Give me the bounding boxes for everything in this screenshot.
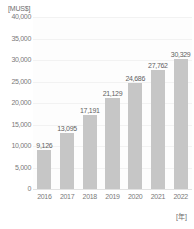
y-axis-unit-label: [MUS$]: [8, 5, 30, 12]
bar-item: 21,129: [105, 17, 119, 189]
y-axis-tick-label: 5,000: [0, 164, 31, 171]
bar: [105, 98, 119, 189]
bar-item: 13,095: [60, 17, 74, 189]
y-axis-tick-label: 10,000: [0, 142, 31, 149]
y-axis-tick-label: 20,000: [0, 99, 31, 106]
y-axis-tick-label: 0: [0, 185, 31, 192]
y-axis-tick-label: 40,000: [0, 13, 31, 20]
bar: [151, 70, 165, 189]
bar-value-label: 24,686: [125, 75, 145, 82]
y-axis-tick-label: 30,000: [0, 56, 31, 63]
bar-item: 30,329: [174, 17, 188, 189]
bar-chart: [MUS$] 40,00035,00030,00025,00020,00015,…: [0, 0, 194, 229]
bar-item: 27,762: [151, 17, 165, 189]
bar-value-label: 17,191: [80, 107, 100, 114]
bar-item: 17,191: [83, 17, 97, 189]
x-axis-tick-label: 2020: [128, 193, 142, 200]
bar-series: 9,12613,09517,19121,12924,68627,76230,32…: [33, 17, 192, 189]
bar-value-label: 9,126: [36, 142, 52, 149]
bar-value-label: 21,129: [103, 90, 123, 97]
y-axis-tick-label: 15,000: [0, 121, 31, 128]
bar: [174, 59, 188, 189]
bar-value-label: 30,329: [171, 51, 191, 58]
bar: [83, 115, 97, 189]
x-axis-tick-label: 2019: [105, 193, 119, 200]
x-axis-tick-label: 2022: [173, 193, 187, 200]
x-axis-tick-label: 2016: [37, 193, 51, 200]
gridline: [33, 189, 192, 190]
x-axis-tick-label: 2021: [151, 193, 165, 200]
bar: [37, 150, 51, 189]
bar-value-label: 27,762: [148, 62, 168, 69]
bar-item: 24,686: [128, 17, 142, 189]
y-axis-tick-label: 35,000: [0, 35, 31, 42]
bar-value-label: 13,095: [57, 125, 77, 132]
x-axis-label: [年]: [176, 211, 187, 221]
x-axis-tick-label: 2018: [83, 193, 97, 200]
y-axis-tick-label: 25,000: [0, 78, 31, 85]
bar: [60, 133, 74, 189]
bar: [128, 83, 142, 189]
x-axis-tick-label: 2017: [60, 193, 74, 200]
bar-item: 9,126: [37, 17, 51, 189]
